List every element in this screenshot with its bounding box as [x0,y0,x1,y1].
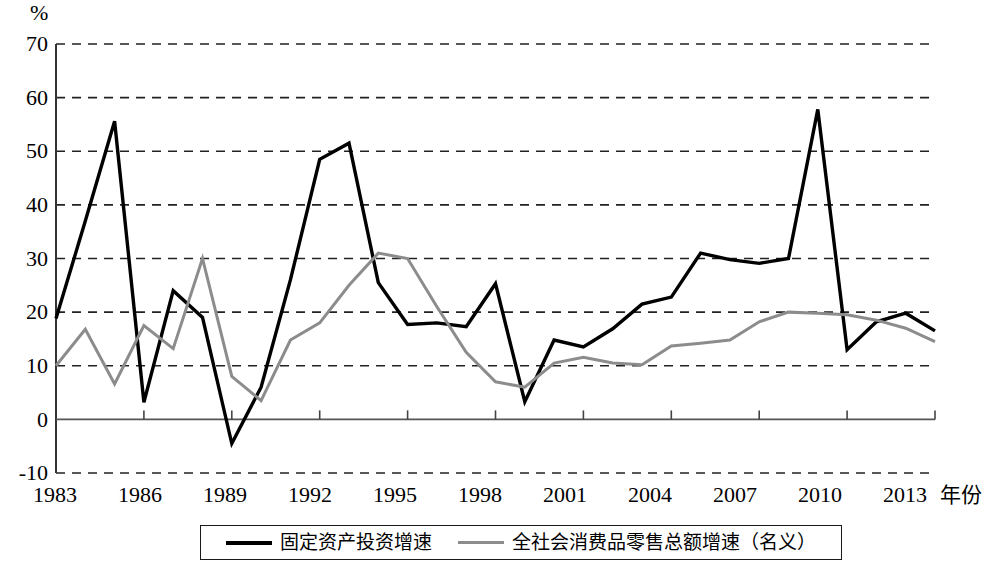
legend-swatch-black-line-icon [226,541,272,545]
chart-container: % 70 60 50 40 30 20 10 0 -10 1983 1986 1… [0,0,993,565]
plot-area [0,0,993,520]
legend-item-retail-sales: 全社会消费品零售总额增速（名义） [458,533,816,552]
legend: 固定资产投资增速 全社会消费品零售总额增速（名义） [200,525,842,560]
legend-item-fixed-asset-investment: 固定资产投资增速 [226,533,432,552]
legend-swatch-gray-line-icon [458,541,504,544]
series-line-fixed-asset-investment [56,109,935,443]
legend-label: 全社会消费品零售总额增速（名义） [512,533,816,552]
data-series-layer [56,109,935,443]
legend-label: 固定资产投资增速 [280,533,432,552]
x-axis-ticks [144,410,935,419]
series-line-retail-sales [56,253,935,400]
gridlines [56,44,935,473]
